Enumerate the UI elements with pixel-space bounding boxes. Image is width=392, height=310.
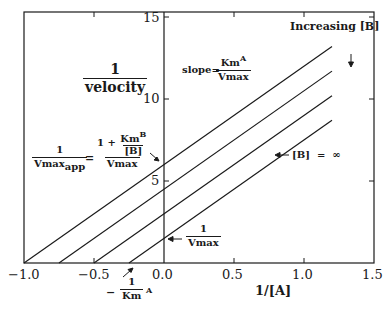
x-tick-label: −0.5 [78,268,110,281]
vmax-app-fraction: 1 Vmaxapp [32,145,87,172]
x-axis-title: 1/[A] [255,284,291,297]
y-tick-label: 15 [143,11,160,24]
slope-sup-a: A [240,53,246,63]
x-tick-label: 0.0 [152,268,173,281]
x-tick-label: −1.0 [8,268,40,281]
inv-vmax-numerator: 1 [198,224,209,236]
vmax-app-numerator: 1 [54,145,65,157]
y-tick-label: 5 [151,174,159,187]
rhs-km: Km [120,133,139,144]
kma-minus: − [106,287,115,298]
inv-vmax-label: 1 Vmax [186,224,221,248]
lineweaver-burk-chart: −1.0−0.50.00.51.01.5 51015 1 velocity 1/… [0,0,392,310]
increasing-arrowhead [349,62,354,67]
series-line-4 [129,120,332,263]
x-tick-label: 1.0 [292,268,313,281]
y-title-denominator: velocity [83,78,147,95]
vmax-app-equals: = [85,153,94,164]
vmax-app-denominator: Vmaxapp [32,157,87,173]
slope-numerator: KmA [219,54,249,70]
vmax-app-rhs: 1 + KmB [B] Vmax [95,130,149,170]
inv-vmax-denominator: Vmax [186,236,221,249]
kma-numerator: 1 [126,277,137,289]
y-title-numerator: 1 [108,62,122,78]
binf-arrowhead [275,153,280,158]
x-tick-label: 1.5 [362,268,383,281]
rhs-inner-num: KmB [119,130,147,145]
vmax-app-sub: app [65,161,85,172]
b-infinity-label: [B] = ∞ [292,150,341,160]
vmax-arrowhead [168,237,173,242]
slope-annotation: slope= [182,64,220,74]
kma-denominator: Km [120,289,143,302]
slope-denominator: Vmax [216,70,251,83]
rhs-one-plus: 1 + [97,138,119,149]
rhs-inner-den: [B] [123,145,143,157]
slope-fraction: KmA Vmax [216,54,251,82]
vmax-app-vmax: Vmax [34,158,65,169]
slope-prefix: slope= [182,64,220,75]
rhs-inner-fraction: KmB [B] [119,130,147,156]
x-tick-label: 0.5 [222,268,243,281]
rhs-sup-b: B [140,129,147,139]
vmax-app-rhs-denominator: Vmax [105,157,140,170]
y-axis-title: 1 velocity [83,62,147,94]
kma-sup-a: A [146,286,152,294]
slope-km: Km [221,57,240,68]
increasing-b-label: Increasing [B] [290,21,379,32]
vmax-app-rhs-numerator: 1 + KmB [B] [95,130,149,157]
neg-inv-kma-label: 1 Km [120,277,143,301]
